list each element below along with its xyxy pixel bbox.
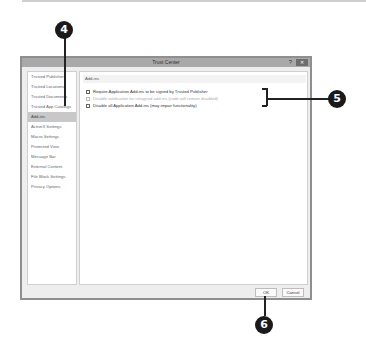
callout-4-leader — [64, 38, 66, 106]
callout-6-leader — [264, 296, 266, 316]
sidebar-item-trusted-documents[interactable]: Trusted Documents — [28, 92, 76, 102]
cancel-button[interactable]: Cancel — [282, 288, 304, 297]
help-icon[interactable]: ? — [289, 58, 292, 67]
sidebar-item-privacy-options[interactable]: Privacy Options — [28, 182, 76, 192]
top-rule — [22, 0, 366, 2]
section-title: Add-ins — [83, 75, 306, 83]
sidebar-item-macro-settings[interactable]: Macro Settings — [28, 132, 76, 142]
close-icon[interactable]: ✕ — [296, 59, 308, 66]
sidebar-item-add-ins[interactable]: Add-ins — [28, 112, 76, 122]
callout-6: 6 — [255, 316, 273, 334]
ok-button[interactable]: OK — [255, 288, 277, 297]
require-signed-option[interactable]: Require Application Add-ins to be signed… — [86, 89, 208, 94]
sidebar-item-activex-settings[interactable]: ActiveX Settings — [28, 122, 76, 132]
content-pane: Add-ins Require Application Add-ins to b… — [79, 71, 308, 285]
disable-notification-option: Disable notification for unsigned add-in… — [86, 96, 218, 101]
sidebar-item-trusted-locations[interactable]: Trusted Locations — [28, 82, 76, 92]
callout-5-bracket — [266, 88, 268, 106]
sidebar-item-trusted-app-catalogs[interactable]: Trusted App Catalogs — [28, 102, 76, 112]
checkbox[interactable] — [86, 90, 90, 94]
callout-5-bracket-top — [262, 88, 267, 90]
checkbox — [86, 97, 90, 101]
sidebar: Trusted Publishers Trusted Locations Tru… — [27, 71, 77, 285]
sidebar-item-trusted-publishers[interactable]: Trusted Publishers — [28, 72, 76, 82]
sidebar-item-protected-view[interactable]: Protected View — [28, 142, 76, 152]
sidebar-item-external-content[interactable]: External Content — [28, 162, 76, 172]
checkbox[interactable] — [86, 104, 90, 108]
callout-4: 4 — [55, 21, 73, 39]
callout-5-leader — [267, 98, 331, 100]
callout-5: 5 — [328, 90, 346, 108]
sidebar-item-file-block-settings[interactable]: File Block Settings — [28, 172, 76, 182]
sidebar-item-message-bar[interactable]: Message Bar — [28, 152, 76, 162]
callout-5-bracket-bottom — [262, 105, 267, 107]
disable-all-addins-option[interactable]: Disable all Application Add-ins (may imp… — [86, 103, 197, 108]
